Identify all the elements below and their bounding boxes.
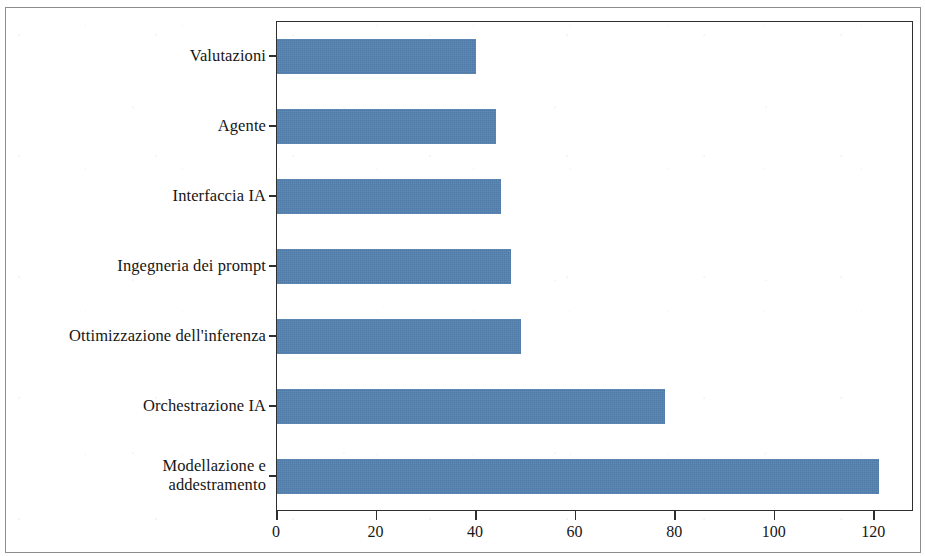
x-axis-tick-label: 120 [843, 523, 903, 541]
bar-series [277, 22, 912, 510]
y-axis-category-label: Orchestrazione IA [4, 396, 266, 415]
y-axis-category-label: Modellazione eaddestramento [4, 456, 266, 494]
y-axis-category-label-line: Agente [4, 116, 266, 135]
bar [277, 319, 521, 354]
x-axis-tick [376, 511, 378, 520]
x-axis-tick [475, 511, 477, 520]
x-axis-tick [774, 511, 776, 520]
y-axis-category-label-line: Orchestrazione IA [4, 396, 266, 415]
y-axis-category-label: Ottimizzazione dell'inferenza [4, 326, 266, 345]
y-axis-category-label-line: Valutazioni [4, 46, 266, 65]
x-axis-tick-label: 60 [545, 523, 605, 541]
x-axis-tick-label: 20 [346, 523, 406, 541]
bar [277, 389, 665, 424]
x-axis-tick-label: 40 [445, 523, 505, 541]
x-axis-tick-label: 80 [644, 523, 704, 541]
figure-canvas: Modellazione eaddestramentoOrchestrazion… [0, 0, 925, 556]
y-axis-category-label-line: Interfaccia IA [4, 186, 266, 205]
x-axis-tick [575, 511, 577, 520]
x-axis-tick [674, 511, 676, 520]
y-axis-category-label-line: Modellazione e [4, 456, 266, 475]
y-axis-category-label-line: Ingegneria dei prompt [4, 256, 266, 275]
x-axis-tick-label: 100 [744, 523, 804, 541]
bar [277, 459, 879, 494]
bar [277, 109, 496, 144]
y-axis-category-label: Interfaccia IA [4, 186, 266, 205]
x-axis-tick [873, 511, 875, 520]
bar [277, 249, 511, 284]
y-axis-category-label: Agente [4, 116, 266, 135]
bar [277, 179, 501, 214]
y-axis-category-label-line: addestramento [4, 475, 266, 494]
y-axis-category-label: Ingegneria dei prompt [4, 256, 266, 275]
bar [277, 39, 476, 74]
y-axis-label-group: Modellazione eaddestramentoOrchestrazion… [0, 0, 266, 556]
x-axis-tick [276, 511, 278, 520]
x-axis-tick-label: 0 [246, 523, 306, 541]
y-axis-category-label-line: Ottimizzazione dell'inferenza [4, 326, 266, 345]
y-axis-category-label: Valutazioni [4, 46, 266, 65]
